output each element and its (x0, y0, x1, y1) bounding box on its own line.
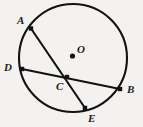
point-marker-d (20, 67, 24, 71)
center-point-dot (70, 53, 75, 58)
point-marker-b (118, 87, 122, 91)
point-label-b: B (127, 84, 134, 95)
point-label-a: A (17, 15, 24, 26)
point-marker-a (29, 26, 33, 30)
point-label-c: C (56, 81, 63, 92)
chord-a-e (31, 29, 85, 109)
point-label-o: O (77, 44, 85, 55)
point-marker-c (65, 75, 69, 79)
point-label-e: E (88, 113, 95, 124)
point-label-d: D (4, 62, 12, 73)
point-marker-e (83, 106, 87, 110)
circle-geometry-diagram: O A D C B E (0, 0, 143, 127)
